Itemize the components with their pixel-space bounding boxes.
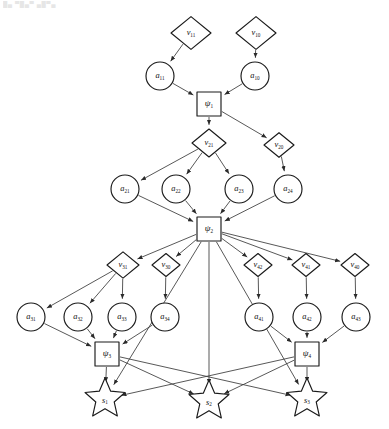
node-a34[interactable]: a34 xyxy=(151,303,179,331)
factor-graph: v11v10a11a10ψ1v21v20a21a22a23a24ψ2v31v30… xyxy=(0,0,389,429)
node-v21[interactable]: v21 xyxy=(192,129,226,157)
node-v20[interactable]: v20 xyxy=(264,133,294,158)
edge-a43-to-psi4 xyxy=(322,326,344,342)
node-a10[interactable]: a10 xyxy=(241,62,269,90)
node-v10[interactable]: v10 xyxy=(236,17,276,50)
node-a33[interactable]: a33 xyxy=(108,303,136,331)
node-v42[interactable]: v42 xyxy=(244,254,272,277)
node-v11[interactable]: v11 xyxy=(171,17,211,50)
diagram-canvas: █▄ ▀█▄▀ ▄█▀▄ v11v10a11a10ψ1v21v20a21a22a… xyxy=(0,0,389,429)
node-a22[interactable]: a22 xyxy=(162,175,190,203)
node-a31[interactable]: a31 xyxy=(17,303,45,331)
node-a41[interactable]: a41 xyxy=(245,303,273,331)
edge-a10-to-psi1 xyxy=(225,84,243,95)
node-v41[interactable]: v41 xyxy=(292,254,320,277)
node-v31[interactable]: v31 xyxy=(107,252,139,278)
node-s2[interactable]: s2 xyxy=(189,380,229,418)
edge-a41-to-psi4 xyxy=(271,326,292,342)
node-a32[interactable]: a32 xyxy=(64,303,92,331)
edge-a11-to-psi1 xyxy=(173,83,193,95)
node-a21[interactable]: a21 xyxy=(111,175,139,203)
node-psi4[interactable]: ψ4 xyxy=(295,342,319,366)
node-a42[interactable]: a42 xyxy=(293,303,321,331)
node-s1[interactable]: s1 xyxy=(85,378,125,416)
edge-psi4-to-s2 xyxy=(224,360,294,394)
edge-v20-to-a24 xyxy=(281,157,284,172)
node-layer: v11v10a11a10ψ1v21v20a21a22a23a24ψ2v31v30… xyxy=(17,17,370,418)
node-s3[interactable]: s3 xyxy=(287,378,327,416)
edge-a32-to-psi3 xyxy=(87,329,95,339)
edge-v21-to-a22 xyxy=(187,153,203,175)
node-a11[interactable]: a11 xyxy=(146,62,174,90)
node-a43[interactable]: a43 xyxy=(342,303,370,331)
edge-v11-to-a11 xyxy=(171,44,183,61)
node-psi1[interactable]: ψ1 xyxy=(197,92,221,116)
edge-v21-to-a23 xyxy=(215,153,229,174)
edge-psi2-to-v42 xyxy=(222,238,247,257)
node-psi3[interactable]: ψ3 xyxy=(95,342,119,366)
edge-v31-to-a32 xyxy=(90,273,116,303)
edge-a33-to-psi3 xyxy=(113,331,116,338)
edge-psi2-to-v40 xyxy=(222,232,340,261)
edge-v21-to-a21 xyxy=(141,149,198,180)
edge-v31-to-a31 xyxy=(47,271,113,308)
node-v30[interactable]: v30 xyxy=(152,254,180,277)
edge-a23-to-psi2 xyxy=(221,201,230,214)
edge-psi2-to-v30 xyxy=(176,240,196,257)
edge-a22-to-psi2 xyxy=(186,201,197,214)
node-a23[interactable]: a23 xyxy=(225,175,253,203)
node-psi2[interactable]: ψ2 xyxy=(197,217,221,241)
edge-psi1-to-v20 xyxy=(222,112,267,138)
node-v40[interactable]: v40 xyxy=(341,254,369,277)
node-a24[interactable]: a24 xyxy=(274,175,302,203)
